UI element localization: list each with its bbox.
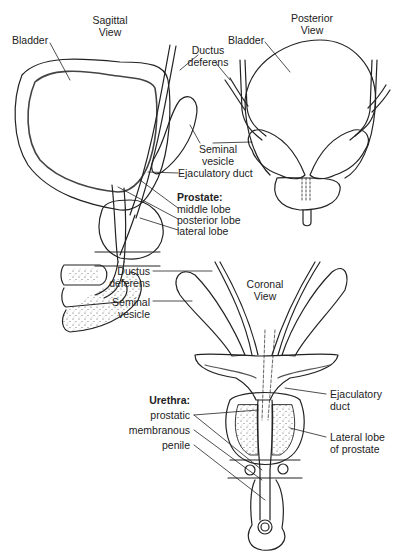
title-line: View (80, 26, 140, 38)
label-ductus-deferens-coronal: Ductus deferens (100, 265, 150, 289)
label-membranous: membranous (110, 424, 190, 436)
label-lateral-lobe: lateral lobe (177, 225, 228, 237)
anatomy-illustration (0, 0, 395, 551)
label-line: duct (330, 400, 382, 412)
label-ejaculatory-duct-coronal: Ejaculatory duct (330, 388, 382, 412)
label-line: vesicle (198, 155, 238, 167)
label-ductus-deferens-top: Ductus deferens (183, 44, 233, 68)
label-seminal-vesicle-top: Seminal vesicle (198, 143, 238, 167)
title-line: View (240, 290, 290, 302)
posterior-view-drawing (213, 40, 390, 226)
title-line: View (282, 24, 342, 36)
sagittal-view-title: Sagittal View (80, 14, 140, 38)
label-line: Ejaculatory (330, 388, 382, 400)
label-ejaculatory-duct-sagittal: Ejaculatory duct (178, 167, 253, 179)
label-line: Seminal (198, 143, 238, 155)
label-prostatic: prostatic (110, 409, 190, 421)
label-prostate-heading: Prostate: (177, 191, 223, 203)
label-urethra-heading: Urethra: (120, 394, 190, 406)
coronal-view-title: Coronal View (240, 278, 290, 302)
label-line: of prostate (330, 443, 385, 455)
label-line: Ductus (183, 44, 233, 56)
label-line: vesicle (100, 308, 150, 320)
label-seminal-vesicle-coronal: Seminal vesicle (100, 296, 150, 320)
posterior-view-title: Posterior View (282, 12, 342, 36)
label-line: deferens (183, 56, 233, 68)
label-line: Seminal (100, 296, 150, 308)
label-bladder-posterior: Bladder (228, 34, 264, 46)
label-line: deferens (100, 277, 150, 289)
label-line: Lateral lobe (330, 431, 385, 443)
title-line: Coronal (240, 278, 290, 290)
label-bladder-sagittal: Bladder (12, 34, 48, 46)
label-line: Ductus (100, 265, 150, 277)
title-line: Sagittal (80, 14, 140, 26)
label-lateral-lobe-of-prostate: Lateral lobe of prostate (330, 431, 385, 455)
label-penile: penile (110, 439, 190, 451)
coronal-view-drawing (153, 262, 347, 550)
title-line: Posterior (282, 12, 342, 24)
